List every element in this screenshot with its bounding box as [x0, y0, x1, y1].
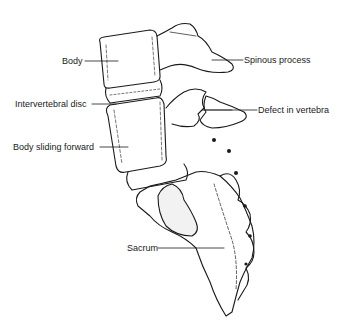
label-spinous-process: Spinous process [244, 55, 311, 65]
intervertebral-disc-lower [127, 164, 188, 190]
upper-spinous-process [157, 24, 233, 73]
intervertebral-disc-upper [106, 80, 163, 103]
label-intervertebral-disc: Intervertebral disc [15, 99, 87, 109]
posterior-arch-detached [200, 96, 246, 128]
label-sacrum: Sacrum [127, 243, 158, 253]
label-body-sliding-forward: Body sliding forward [13, 142, 94, 152]
sliding-vertebral-body [106, 98, 166, 173]
upper-vertebral-body [100, 30, 161, 88]
spine-diagram [0, 0, 349, 328]
label-body: Body [62, 56, 83, 66]
label-defect-in-vertebra: Defect in vertebra [258, 105, 329, 115]
